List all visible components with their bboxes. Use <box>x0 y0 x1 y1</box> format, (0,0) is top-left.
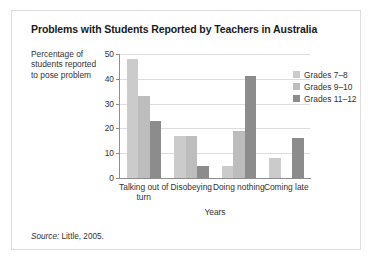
legend-swatch-icon <box>293 71 300 78</box>
legend: Grades 7–8Grades 9–10Grades 11–12 <box>293 69 356 105</box>
figure-card: Problems with Students Reported by Teach… <box>11 10 361 250</box>
source-label: Source: <box>31 232 59 241</box>
bar[interactable] <box>245 76 257 178</box>
legend-label: Grades 7–8 <box>304 70 348 80</box>
bar-group: Doing nothing <box>215 54 263 178</box>
bar[interactable] <box>222 166 234 178</box>
y-axis-tick-label: 30 <box>92 99 114 109</box>
bar-group: Disobeying <box>168 54 216 178</box>
x-axis-line <box>119 178 311 179</box>
legend-item[interactable]: Grades 11–12 <box>293 93 356 104</box>
y-axis-tick-label: 20 <box>92 123 114 133</box>
legend-item[interactable]: Grades 9–10 <box>293 81 356 92</box>
bar[interactable] <box>186 136 198 178</box>
bar[interactable] <box>174 136 186 178</box>
bar[interactable] <box>269 158 281 178</box>
legend-swatch-icon <box>293 95 300 102</box>
plot-area: Talking out of turnDisobeyingDoing nothi… <box>120 54 310 178</box>
y-axis-tick-label: 0 <box>92 173 114 183</box>
bar[interactable] <box>292 138 304 178</box>
y-axis-tick-label: 40 <box>92 74 114 84</box>
bar-group: Talking out of turn <box>120 54 168 178</box>
y-axis-tick <box>116 178 120 179</box>
x-axis-category-label: Coming late <box>257 182 317 192</box>
x-axis-label: Years <box>120 207 310 217</box>
y-axis-tick-label: 10 <box>92 148 114 158</box>
legend-item[interactable]: Grades 7–8 <box>293 69 356 80</box>
legend-swatch-icon <box>293 83 300 90</box>
legend-label: Grades 9–10 <box>304 82 352 92</box>
chart-title: Problems with Students Reported by Teach… <box>31 23 317 35</box>
bar[interactable] <box>233 131 245 178</box>
bar[interactable] <box>138 96 150 178</box>
source-text: Little, 2005. <box>62 232 104 241</box>
bar[interactable] <box>150 121 162 178</box>
y-axis-tick-labels: 01020304050 <box>90 54 114 178</box>
y-axis-tick-label: 50 <box>92 49 114 59</box>
legend-label: Grades 11–12 <box>304 94 356 104</box>
source-note: Source: Little, 2005. <box>31 232 104 241</box>
bar[interactable] <box>127 59 139 178</box>
bar[interactable] <box>197 166 209 178</box>
